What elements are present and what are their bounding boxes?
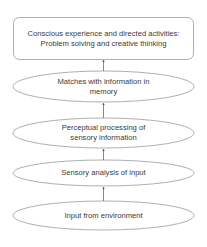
node-perceptual-label: Perceptual processing of sensory informa… (14, 118, 193, 148)
node-top-label: Conscious experience and directed activi… (14, 18, 193, 59)
node-top-line-2: Problem solving and creative thinking (28, 39, 180, 49)
node-memory-line-2: memory (57, 87, 149, 97)
node-top-line-1: Conscious experience and directed activi… (28, 29, 180, 39)
node-perceptual-line-2: sensory information (62, 133, 146, 143)
node-memory-label: Matches with information in memory (14, 71, 193, 102)
node-input-line-1: Input from environment (64, 211, 142, 221)
node-memory-line-1: Matches with information in (57, 77, 149, 87)
node-sensory-label: Sensory analysis of input (14, 160, 193, 186)
node-input-label: Input from environment (14, 201, 193, 230)
node-perceptual-line-1: Perceptual processing of (62, 123, 146, 133)
node-sensory-line-1: Sensory analysis of input (61, 168, 145, 178)
